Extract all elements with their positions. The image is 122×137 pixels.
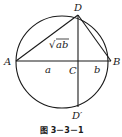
label-D-prime: D′ xyxy=(71,110,83,121)
figure-caption: 图 3－3－1 xyxy=(40,126,84,135)
label-a: a xyxy=(45,64,51,75)
segment-AD xyxy=(16,15,78,61)
label-sqrt-ab: √ ab xyxy=(49,39,69,50)
label-A: A xyxy=(3,56,11,67)
segment-DB xyxy=(78,15,111,61)
label-D: D xyxy=(73,2,82,13)
circle xyxy=(16,16,108,108)
circle-diagram: D A B C a b D′ √ ab 图 3－3－1 xyxy=(0,0,122,137)
sqrt-symbol: √ xyxy=(49,39,56,50)
sqrt-radicand: ab xyxy=(56,39,68,50)
label-C: C xyxy=(69,65,77,76)
label-b: b xyxy=(94,64,100,75)
label-B: B xyxy=(112,56,120,67)
